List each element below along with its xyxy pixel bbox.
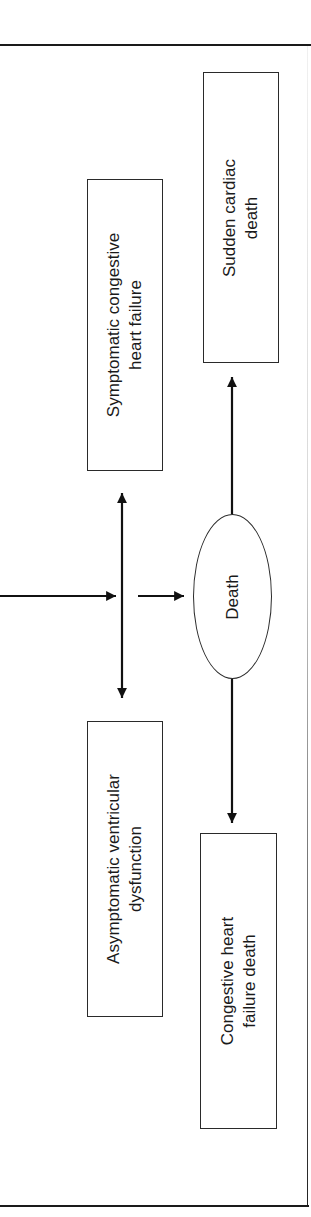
label-line-2: failure death: [239, 917, 261, 1046]
node-chf-death: Congestive heart failure death: [200, 833, 277, 1129]
node-label: Symptomatic congestive heart failure: [103, 233, 147, 417]
label-line-2: death: [241, 158, 263, 276]
node-death: Death: [193, 514, 272, 679]
label-line-1: Congestive heart: [217, 917, 239, 1046]
node-label: Asymptomatic ventricular dysfunction: [103, 774, 147, 964]
node-label: Death: [222, 574, 244, 619]
label-line-1: Asymptomatic ventricular: [103, 774, 125, 964]
node-sudden-cardiac-death: Sudden cardiac death: [203, 72, 279, 363]
node-label: Congestive heart failure death: [217, 917, 261, 1046]
node-symptomatic-chf: Symptomatic congestive heart failure: [87, 179, 163, 471]
node-label: Sudden cardiac death: [219, 158, 263, 276]
label-line-2: heart failure: [125, 233, 147, 417]
node-asymptomatic-ventricular-dysfunction: Asymptomatic ventricular dysfunction: [87, 721, 163, 1017]
label-line-2: dysfunction: [125, 774, 147, 964]
diagram-canvas: Symptomatic congestive heart failure Asy…: [0, 0, 311, 1217]
label-line-1: Sudden cardiac: [219, 158, 241, 276]
label-line-1: Symptomatic congestive: [103, 233, 125, 417]
